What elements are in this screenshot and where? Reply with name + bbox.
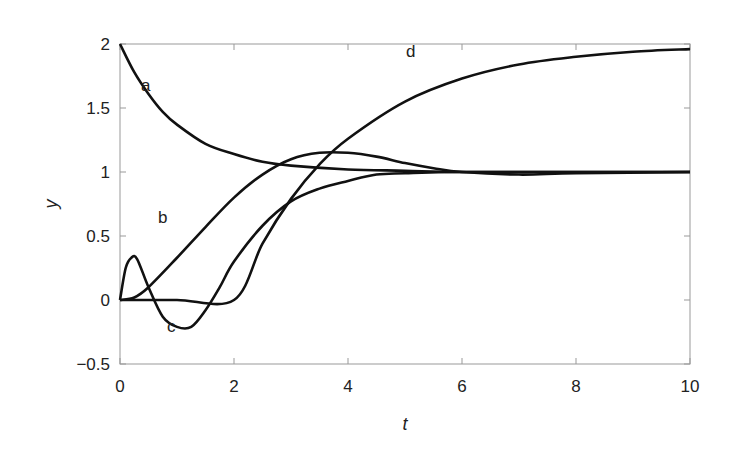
- y-tick-label: 0: [101, 291, 110, 310]
- plot-frame: [120, 44, 690, 364]
- y-tick-label: 2: [101, 35, 110, 54]
- x-tick-label: 0: [115, 377, 124, 396]
- y-tick-label: 1: [101, 163, 110, 182]
- curve-label-c: c: [167, 317, 176, 336]
- x-tick-label: 8: [571, 377, 580, 396]
- curve-label-d: d: [406, 42, 415, 61]
- y-tick-labels: −0.500.511.52: [76, 35, 110, 374]
- curves: [120, 44, 690, 329]
- y-tick-label: 0.5: [86, 227, 110, 246]
- y-tick-label: 1.5: [86, 99, 110, 118]
- curve-a: [120, 44, 690, 172]
- curve-label-a: a: [141, 76, 151, 95]
- x-tick-labels: 0246810: [115, 377, 699, 396]
- curve-label-b: b: [158, 208, 167, 227]
- x-tick-label: 10: [681, 377, 700, 396]
- axis-ticks: [120, 44, 690, 364]
- line-chart: 0246810 −0.500.511.52 abcd t y: [0, 0, 730, 455]
- x-axis-label: t: [402, 414, 408, 434]
- y-axis-label: y: [41, 199, 61, 211]
- y-tick-label: −0.5: [76, 355, 110, 374]
- x-tick-label: 4: [343, 377, 352, 396]
- curve-labels: abcd: [141, 42, 416, 336]
- curve-c: [120, 172, 690, 329]
- curve-d: [120, 49, 690, 304]
- x-tick-label: 6: [457, 377, 466, 396]
- x-tick-label: 2: [229, 377, 238, 396]
